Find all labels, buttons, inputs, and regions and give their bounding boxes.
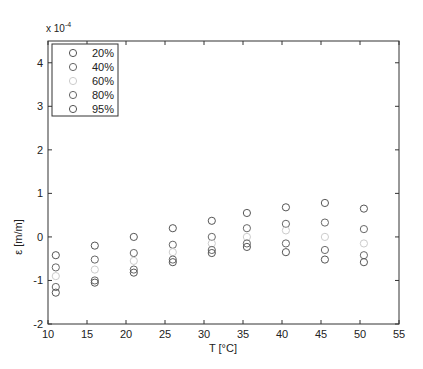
data-point xyxy=(360,259,367,266)
data-point xyxy=(52,252,59,259)
x-tick-label: 40 xyxy=(276,328,288,340)
data-point xyxy=(282,249,289,256)
x-axis-label: T [°C] xyxy=(209,342,237,354)
data-point xyxy=(91,266,98,273)
scatter-chart: 10152025303540455055-2-101234 20%40%60%8… xyxy=(0,0,423,369)
y-tick-label: -2 xyxy=(33,318,43,330)
data-point xyxy=(243,225,250,232)
data-point xyxy=(321,199,328,206)
y-tick-label: 1 xyxy=(37,187,43,199)
data-point xyxy=(169,241,176,248)
data-point xyxy=(282,204,289,211)
data-point xyxy=(360,252,367,259)
data-point xyxy=(282,240,289,247)
x-tick-label: 30 xyxy=(198,328,210,340)
x-tick-label: 45 xyxy=(315,328,327,340)
y-tick-label: 4 xyxy=(37,57,43,69)
legend-label: 40% xyxy=(92,61,114,73)
y-tick-label: 0 xyxy=(37,231,43,243)
legend: 20%40%60%80%95% xyxy=(52,44,118,116)
x-tick-label: 55 xyxy=(393,328,405,340)
data-point xyxy=(169,249,176,256)
data-point xyxy=(208,217,215,224)
legend-label: 20% xyxy=(92,47,114,59)
data-point xyxy=(360,240,367,247)
data-point xyxy=(52,264,59,271)
data-point xyxy=(91,256,98,263)
x-tick-label: 50 xyxy=(354,328,366,340)
data-point xyxy=(243,209,250,216)
data-point xyxy=(91,242,98,249)
y-tick-label: 2 xyxy=(37,144,43,156)
data-point xyxy=(52,273,59,280)
data-point xyxy=(360,205,367,212)
x-tick-label: 20 xyxy=(120,328,132,340)
legend-label: 80% xyxy=(92,89,114,101)
data-point xyxy=(169,225,176,232)
data-point xyxy=(321,233,328,240)
y-axis-label: ε [m/m] xyxy=(12,219,24,254)
x-tick-label: 10 xyxy=(42,328,54,340)
data-point xyxy=(130,249,137,256)
x-tick-label: 15 xyxy=(81,328,93,340)
y-tick-label: -1 xyxy=(33,274,43,286)
data-points xyxy=(52,199,367,296)
y-tick-label: 3 xyxy=(37,100,43,112)
data-point xyxy=(130,257,137,264)
data-point xyxy=(321,246,328,253)
y-multiplier: x 10-4 xyxy=(46,21,71,34)
data-point xyxy=(321,219,328,226)
data-point xyxy=(360,225,367,232)
data-point xyxy=(130,233,137,240)
legend-label: 60% xyxy=(92,75,114,87)
data-point xyxy=(321,256,328,263)
x-tick-label: 35 xyxy=(237,328,249,340)
x-tick-label: 25 xyxy=(159,328,171,340)
legend-label: 95% xyxy=(92,103,114,115)
